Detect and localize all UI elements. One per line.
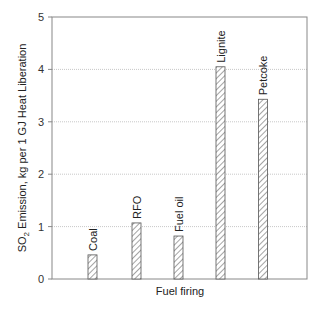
bar-label: RFO	[131, 195, 143, 219]
y-tick-label: 0	[38, 273, 44, 285]
y-tick-label: 2	[38, 168, 44, 180]
y-tick-label: 4	[38, 63, 44, 75]
y-tick-label: 5	[38, 11, 44, 23]
bar-label: Fuel oil	[173, 197, 185, 232]
bar-label: Petcoke	[257, 56, 269, 96]
bar-chart: 012345 CoalRFOFuel oilLignitePetcoke SO2…	[0, 0, 322, 311]
y-axis-ticks: 012345	[38, 11, 52, 285]
y-tick-label: 1	[38, 221, 44, 233]
bar-rfo	[132, 223, 141, 279]
bar-petcoke	[259, 99, 268, 279]
bar-label: Lignite	[215, 30, 227, 62]
y-tick-label: 3	[38, 116, 44, 128]
bar-label: Coal	[87, 228, 99, 251]
bars: CoalRFOFuel oilLignitePetcoke	[87, 30, 270, 279]
bar-fuel-oil	[174, 236, 183, 279]
bar-lignite	[216, 67, 225, 279]
x-axis-label: Fuel firing	[156, 285, 204, 297]
bar-coal	[88, 255, 97, 279]
y-axis-label: SO2 Emission, kg per 1 GJ Heat Liberatio…	[16, 44, 31, 253]
